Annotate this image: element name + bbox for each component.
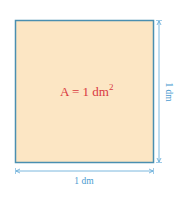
area-label: A = 1 dm2	[60, 82, 113, 99]
height-dimension: 1 dm	[156, 21, 174, 163]
area-label-exponent: 2	[109, 82, 114, 92]
width-label: 1 dm	[74, 176, 94, 186]
height-label: 1 dm	[164, 82, 174, 102]
area-label-base: A = 1 dm	[60, 84, 109, 99]
unit-square-diagram: A = 1 dm2 1 dm 1 dm	[0, 0, 182, 198]
width-dimension: 1 dm	[16, 168, 154, 186]
